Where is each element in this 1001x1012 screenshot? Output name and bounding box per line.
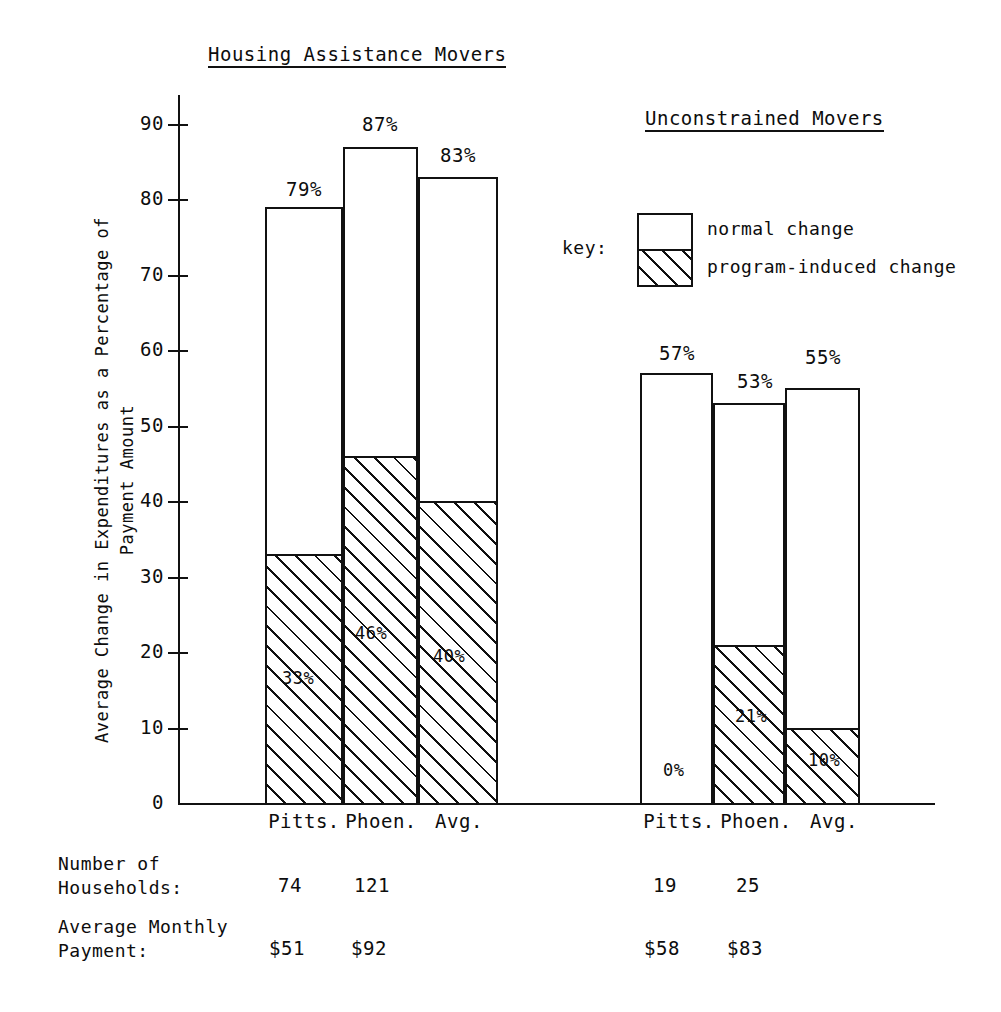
chart-canvas: Housing Assistance Movers Unconstrained … — [0, 0, 1001, 1012]
legend-swatch-hatched — [637, 249, 693, 287]
bar-left-phoen — [343, 147, 418, 805]
y-tick-60 — [168, 350, 188, 352]
y-tick-label-0: 0 — [104, 793, 164, 812]
bar-right-pitts-total-label: 57% — [632, 344, 722, 363]
y-tick-20 — [168, 652, 188, 654]
bar-right-avg-hatch-label: 10% — [808, 752, 840, 769]
y-tick-10 — [168, 728, 188, 730]
y-axis-line — [178, 95, 180, 805]
bar-left-pitts-total-label: 79% — [259, 180, 349, 199]
table-cell-payment-right-pitts: $58 — [627, 939, 697, 958]
y-tick-80 — [168, 199, 188, 201]
bar-left-avg — [418, 177, 498, 805]
bar-left-avg-hatch-label: 40% — [433, 648, 465, 665]
y-tick-30 — [168, 577, 188, 579]
bar-right-avg — [785, 388, 860, 805]
table-cell-households-left-pitts: 74 — [255, 876, 325, 895]
table-cell-payment-left-pitts: $51 — [252, 939, 322, 958]
table-row-label-households: Number of Households: — [58, 852, 183, 900]
bar-left-avg-total-label: 83% — [413, 146, 503, 165]
bar-left-phoen-hatch-label: 46% — [355, 625, 387, 642]
y-tick-label-10: 10 — [104, 718, 164, 737]
x-label-left-avg: Avg. — [414, 812, 504, 831]
left-group-title: Housing Assistance Movers — [208, 44, 506, 68]
table-cell-households-left-phoen: 121 — [337, 876, 407, 895]
y-tick-label-60: 60 — [104, 340, 164, 359]
bar-left-pitts-hatch-label: 33% — [282, 670, 314, 687]
table-cell-payment-right-phoen: $83 — [710, 939, 780, 958]
y-tick-label-50: 50 — [104, 416, 164, 435]
y-tick-50 — [168, 426, 188, 428]
x-label-right-avg: Avg. — [789, 812, 879, 831]
y-axis-title: Average Change in Expenditures as a Perc… — [90, 150, 140, 810]
table-row-label-payment: Average Monthly Payment: — [58, 915, 228, 963]
bar-left-phoen-total-label: 87% — [335, 115, 425, 134]
bar-right-pitts-hatch-label: 0% — [663, 762, 684, 779]
bar-right-avg-total-label: 55% — [778, 348, 868, 367]
y-tick-label-80: 80 — [104, 189, 164, 208]
x-label-right-phoen: Phoen. — [711, 812, 801, 831]
y-tick-label-40: 40 — [104, 491, 164, 510]
y-tick-label-30: 30 — [104, 567, 164, 586]
legend-swatch-box — [637, 213, 693, 287]
legend-key-label: key: — [562, 237, 607, 258]
legend-label-normal-change: normal change — [707, 218, 854, 239]
legend-label-program-induced-change: program-induced change — [707, 256, 956, 277]
y-tick-label-20: 20 — [104, 642, 164, 661]
y-tick-40 — [168, 501, 188, 503]
bar-left-pitts — [265, 207, 343, 805]
table-cell-payment-left-phoen: $92 — [334, 939, 404, 958]
bar-right-phoen — [713, 403, 785, 805]
table-cell-households-right-phoen: 25 — [713, 876, 783, 895]
x-label-left-phoen: Phoen. — [336, 812, 426, 831]
y-tick-70 — [168, 275, 188, 277]
bar-right-pitts — [640, 373, 713, 805]
y-tick-label-70: 70 — [104, 265, 164, 284]
y-tick-label-90: 90 — [104, 114, 164, 133]
bar-right-phoen-hatch-label: 21% — [735, 708, 767, 725]
y-tick-90 — [168, 124, 188, 126]
table-cell-households-right-pitts: 19 — [630, 876, 700, 895]
right-group-title: Unconstrained Movers — [645, 108, 884, 132]
